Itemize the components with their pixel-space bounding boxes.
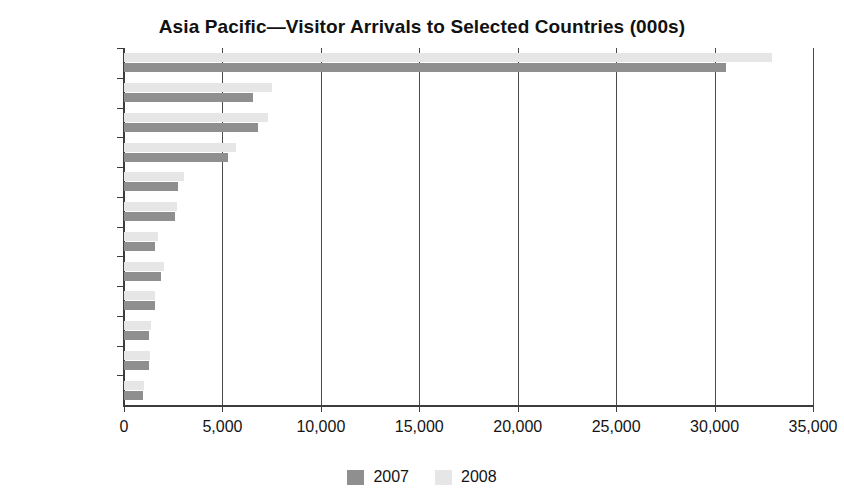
y-axis-tick <box>117 137 124 138</box>
x-axis-tick <box>813 405 814 412</box>
gridline <box>616 48 617 405</box>
bar-chart: Asia Pacific—Visitor Arrivals to Selecte… <box>0 0 844 502</box>
bar-2007 <box>124 361 149 370</box>
y-axis-tick <box>117 108 124 109</box>
bar-2008 <box>124 262 164 271</box>
x-axis-tick <box>616 405 617 412</box>
x-axis-tick <box>419 405 420 412</box>
legend-item: 2007 <box>347 468 409 486</box>
bar-2007 <box>124 93 253 102</box>
gridline <box>715 48 716 405</box>
gridline <box>419 48 420 405</box>
x-axis-tick <box>518 405 519 412</box>
y-axis-tick <box>117 48 124 49</box>
bar-2007 <box>124 272 161 281</box>
legend-swatch <box>435 470 452 485</box>
bar-2008 <box>124 321 151 330</box>
x-axis-tick <box>124 405 125 412</box>
y-axis-tick <box>117 227 124 228</box>
bar-2008 <box>124 232 158 241</box>
bar-2007 <box>124 153 228 162</box>
gridline <box>518 48 519 405</box>
y-axis-tick <box>117 167 124 168</box>
bar-2008 <box>124 381 144 390</box>
x-axis-tick <box>321 405 322 412</box>
bar-2007 <box>124 242 155 251</box>
y-axis-tick <box>117 256 124 257</box>
bar-2008 <box>124 172 184 181</box>
legend-item: 2008 <box>435 468 497 486</box>
y-axis-tick <box>117 78 124 79</box>
bar-2007 <box>124 63 726 72</box>
x-axis-tick <box>222 405 223 412</box>
y-axis-tick <box>117 375 124 376</box>
x-axis-tick-label: 30,000 <box>690 418 739 436</box>
x-axis-tick-label: 35,000 <box>789 418 838 436</box>
y-axis-tick <box>117 346 124 347</box>
bar-2008 <box>124 202 177 211</box>
x-axis-tick <box>715 405 716 412</box>
chart-legend: 20072008 <box>0 468 844 486</box>
bar-2008 <box>124 113 268 122</box>
bar-2007 <box>124 123 258 132</box>
bar-2007 <box>124 391 143 400</box>
x-axis-tick-label: 0 <box>120 418 129 436</box>
bar-2008 <box>124 83 272 92</box>
bar-2007 <box>124 331 149 340</box>
bar-2007 <box>124 182 178 191</box>
bar-2008 <box>124 143 236 152</box>
chart-title: Asia Pacific—Visitor Arrivals to Selecte… <box>0 16 844 38</box>
bar-2008 <box>124 291 155 300</box>
y-axis-tick <box>117 197 124 198</box>
bar-2008 <box>124 53 772 62</box>
bar-2007 <box>124 301 155 310</box>
x-axis-line <box>123 405 814 407</box>
x-axis-tick-label: 20,000 <box>493 418 542 436</box>
bar-2008 <box>124 351 150 360</box>
x-axis-tick-label: 15,000 <box>395 418 444 436</box>
legend-label: 2008 <box>461 468 497 486</box>
gridline <box>813 48 814 405</box>
x-axis-tick-label: 25,000 <box>592 418 641 436</box>
y-axis-tick <box>117 286 124 287</box>
y-axis-tick <box>117 316 124 317</box>
x-axis-tick-label: 10,000 <box>296 418 345 436</box>
legend-label: 2007 <box>373 468 409 486</box>
x-axis-tick-label: 5,000 <box>202 418 242 436</box>
legend-swatch <box>347 470 364 485</box>
gridline <box>321 48 322 405</box>
bar-2007 <box>124 212 175 221</box>
